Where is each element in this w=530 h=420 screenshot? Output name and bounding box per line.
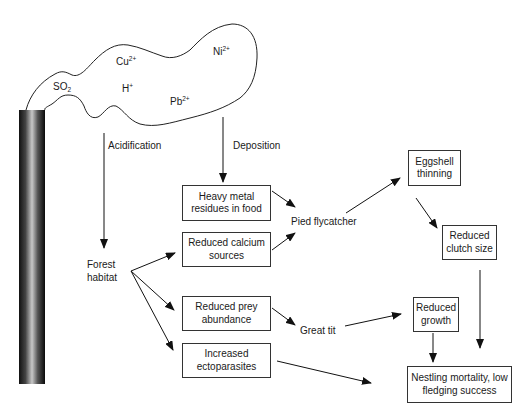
- reduced-calcium-box: Reduced calcium sources: [182, 232, 271, 267]
- ectoparasites-box: Increased ectoparasites: [182, 343, 271, 378]
- forest-to-prey-arrow: [131, 271, 174, 310]
- ion-pb-charge: 2+: [182, 95, 189, 102]
- ion-cu: Cu2+: [116, 56, 136, 68]
- great-tit-label: Great tit: [300, 325, 336, 337]
- forest-to-ectoparasites-arrow: [131, 271, 173, 350]
- ion-so2-subscript: 2: [67, 86, 71, 93]
- flycatcher-to-eggshell-arrow: [346, 178, 400, 213]
- ion-so2-base: SO: [53, 81, 67, 92]
- ion-h-charge: +: [129, 82, 133, 89]
- ion-pb: Pb2+: [170, 96, 190, 108]
- prey-to-greattit-arrow: [272, 308, 295, 325]
- ectoparasites-to-nestling-arrow: [277, 361, 371, 383]
- pollution-cloud: [26, 24, 257, 125]
- reduced-growth-box: Reduced growth: [413, 297, 459, 332]
- pied-flycatcher-label: Pied flycatcher: [291, 216, 357, 228]
- heavy-metal-box: Heavy metal residues in food: [182, 185, 271, 221]
- smokestack-icon: [19, 110, 45, 384]
- ion-h: H+: [122, 83, 133, 95]
- heavymetal-to-flycatcher-arrow: [272, 191, 295, 207]
- acidification-label: Acidification: [108, 140, 161, 152]
- calcium-to-flycatcher-arrow: [272, 233, 295, 250]
- eggshell-box: Eggshell thinning: [408, 150, 461, 186]
- reduced-prey-box: Reduced prey abundance: [182, 296, 271, 331]
- greattit-to-growth-arrow: [345, 314, 401, 326]
- reduced-clutch-box: Reduced clutch size: [442, 225, 497, 260]
- eggshell-to-clutch-arrow: [416, 198, 437, 228]
- ion-cu-charge: 2+: [129, 55, 136, 62]
- ion-cu-base: Cu: [116, 56, 129, 67]
- forest-to-calcium-arrow: [131, 253, 175, 271]
- ion-ni: Ni2+: [213, 46, 230, 58]
- ion-pb-base: Pb: [170, 96, 182, 107]
- ion-so2: SO2: [53, 81, 71, 93]
- forest-habitat-label: Forest habitat: [87, 258, 117, 284]
- deposition-label: Deposition: [233, 140, 280, 152]
- ion-ni-charge: 2+: [222, 45, 229, 52]
- nestling-mortality-box: Nestling mortality, low fledging success: [407, 366, 512, 403]
